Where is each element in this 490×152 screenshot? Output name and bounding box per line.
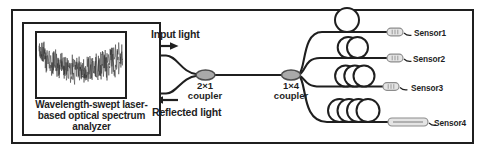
sensor3-label: Sensor3 [411, 83, 443, 93]
sensor4-label: Sensor4 [434, 118, 466, 128]
sensor2-label: Sensor2 [413, 54, 445, 64]
fiber-sensor-diagram: Wavelength-swept laser- based optical sp… [0, 0, 490, 152]
coupler-1x4-word-label: coupler [259, 91, 323, 101]
spectrum-noise-trace [39, 43, 123, 82]
sensor1-label: Sensor1 [414, 28, 446, 38]
spectrum-trace-icon [37, 33, 125, 97]
reflected-light-label: Reflected light [152, 106, 221, 118]
analyzer-label-line3: analyzer [22, 122, 161, 133]
input-light-label: Input light [151, 28, 200, 40]
spectrum-plot [35, 31, 127, 99]
coupler-2x1-word-label: coupler [173, 91, 237, 101]
analyzer-label-line2: based optical spectrum [22, 111, 161, 122]
analyzer-label: Wavelength-swept laser- based optical sp… [22, 100, 161, 132]
